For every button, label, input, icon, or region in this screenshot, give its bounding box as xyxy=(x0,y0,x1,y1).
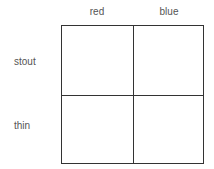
punnett-grid xyxy=(61,25,204,164)
cell-thin-blue xyxy=(134,96,204,163)
cell-stout-red xyxy=(62,26,133,95)
row-header-stout: stout xyxy=(14,56,36,67)
column-header-blue: blue xyxy=(133,6,205,17)
cell-stout-blue xyxy=(134,26,204,95)
row-header-thin: thin xyxy=(14,120,30,131)
column-header-red: red xyxy=(61,6,133,17)
cell-thin-red xyxy=(62,96,133,163)
